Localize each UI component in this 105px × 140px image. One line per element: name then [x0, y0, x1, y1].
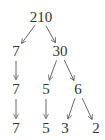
tree-node-n5b: 5	[42, 121, 50, 136]
tree-edge-arrow	[64, 60, 73, 80]
tree-node-n7b: 7	[12, 82, 20, 97]
tree-edge-arrow	[22, 25, 35, 43]
tree-node-n6: 6	[74, 82, 82, 97]
tree-node-n7a: 7	[12, 44, 20, 59]
tree-node-n2: 2	[92, 121, 100, 136]
tree-edge-arrow	[49, 60, 56, 79]
tree-node-n30: 30	[53, 44, 68, 59]
tree-node-n7c: 7	[12, 121, 20, 136]
tree-node-n5a: 5	[42, 82, 50, 97]
tree-edge-arrow	[68, 98, 75, 118]
tree-edge-arrow	[82, 98, 92, 119]
tree-node-n210: 210	[30, 10, 53, 25]
tree-node-n3: 3	[61, 121, 69, 136]
factor-tree-diagram: 2107307567532	[0, 0, 105, 140]
tree-edge-arrow	[46, 26, 55, 43]
